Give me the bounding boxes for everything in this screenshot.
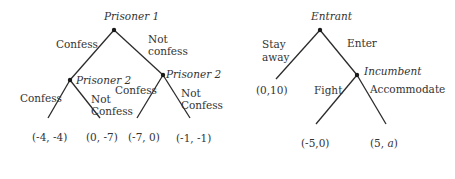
player-label-incumbent: Incumbent — [364, 65, 421, 77]
payoff-stay-away: (0,10) — [256, 84, 288, 96]
payoff-accommodate-prefix: (5, — [370, 137, 387, 149]
player-label-prisoner-2-right: Prisoner 2 — [166, 68, 221, 80]
payoff-notconfess-notconfess: (-1, -1) — [176, 132, 211, 144]
payoff-fight: (-5,0) — [301, 137, 329, 149]
move-label-enter: Enter — [347, 37, 377, 49]
move-label-not-left: Not — [91, 93, 111, 105]
node-prisoner-2-left — [68, 78, 72, 82]
payoff-confess-notconfess: (0, -7) — [86, 131, 118, 143]
move-label-confess-right-2: Confess — [181, 99, 223, 111]
move-label-accommodate: Accommodate — [370, 83, 445, 95]
move-label-away: away — [262, 51, 289, 63]
payoff-accommodate: (5, a) — [370, 137, 398, 149]
move-label-not: Not — [148, 33, 168, 45]
node-prisoner-1 — [112, 28, 116, 32]
player-label-entrant: Entrant — [311, 10, 352, 22]
move-label-confess-left-2: Confess — [91, 105, 133, 117]
move-label-confess-left: Confess — [20, 92, 62, 104]
payoff-accommodate-suffix: ) — [394, 137, 398, 149]
node-prisoner-2-right — [161, 73, 165, 77]
move-label-not-right: Not — [181, 87, 201, 99]
player-label-prisoner-1: Prisoner 1 — [104, 10, 159, 22]
move-label-confess: Confess — [56, 38, 98, 50]
move-label-confess-right: Confess — [115, 84, 157, 96]
move-label-stay: Stay — [262, 38, 286, 50]
payoff-notconfess-confess: (-7, 0) — [128, 131, 160, 143]
node-entrant — [318, 28, 322, 32]
move-label-confess-2: confess — [148, 45, 188, 57]
node-incumbent — [355, 73, 359, 77]
payoff-confess-confess: (-4, -4) — [32, 131, 67, 143]
move-label-fight: Fight — [314, 84, 342, 96]
